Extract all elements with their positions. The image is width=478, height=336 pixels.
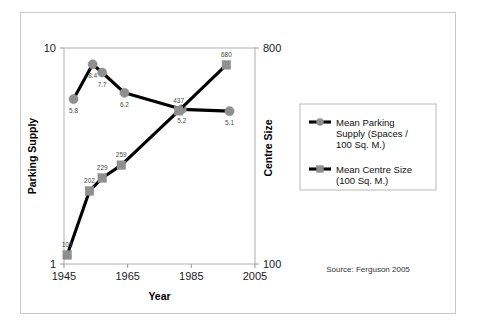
data-point-label: 680	[221, 51, 232, 58]
legend-entry-label: 100 Sq. M.)	[336, 139, 385, 150]
y2-tick-label: 100	[263, 258, 281, 270]
data-point-label: 5.8	[69, 107, 78, 114]
plot-frame	[64, 48, 255, 264]
y-axis-right-title: Centre Size	[262, 119, 274, 176]
legend-marker-circle	[316, 118, 323, 125]
series-container	[63, 60, 234, 260]
legend-entry-label: (100 Sq. M.)	[336, 175, 388, 186]
x-tick-label: 1985	[179, 270, 203, 282]
data-point-marker	[120, 88, 129, 97]
data-point-marker	[117, 161, 126, 170]
data-point-label: 229	[97, 164, 108, 171]
data-point-marker	[63, 251, 72, 260]
figure-canvas: 1945196519852005 110 100800 5.88.47.76.2…	[0, 0, 478, 336]
x-tick-label: 1965	[115, 270, 139, 282]
chart-legend: Mean ParkingSupply (Spaces /100 Sq. M.)M…	[300, 104, 436, 190]
data-point-marker	[174, 107, 183, 116]
data-point-label: 8.4	[88, 72, 97, 79]
data-point-marker	[88, 60, 97, 69]
data-point-marker	[69, 94, 78, 103]
data-point-label: 7.7	[98, 81, 107, 88]
legend-marker-square	[317, 166, 324, 173]
data-point-label: 5.1	[225, 119, 234, 126]
x-tick-label: 1945	[52, 270, 76, 282]
source-annotation: Source: Ferguson 2005	[326, 265, 410, 274]
legend-entry-label: Mean Centre Size	[336, 164, 412, 175]
data-point-label: 6.2	[120, 101, 129, 108]
data-point-marker	[85, 187, 94, 196]
legend-entry-label: Supply (Spaces /	[336, 128, 408, 139]
data-point-marker	[98, 68, 107, 77]
chart-plot-area: 1945196519852005 110 100800 5.88.47.76.2…	[0, 0, 478, 336]
x-axis-ticks: 1945196519852005	[52, 264, 267, 282]
legend-entry-label: Mean Parking	[336, 117, 395, 128]
series-line-2	[67, 65, 226, 255]
data-point-label: 5.2	[177, 117, 186, 124]
y-axis-left-title: Parking Supply	[26, 118, 38, 195]
data-point-marker	[98, 174, 107, 183]
x-tick-label: 2005	[243, 270, 267, 282]
data-point-label: 259	[116, 151, 127, 158]
y2-tick-label: 800	[263, 42, 281, 54]
y-axis-left-ticks: 110	[44, 42, 64, 270]
data-point-label: 109	[62, 241, 73, 248]
y-tick-label: 1	[50, 258, 56, 270]
data-point-label: 202	[84, 177, 95, 184]
data-point-marker	[222, 61, 231, 70]
y-tick-label: 10	[44, 42, 56, 54]
x-axis-title: Year	[148, 290, 170, 302]
data-point-marker	[225, 107, 234, 116]
data-point-label: 437	[173, 97, 184, 104]
